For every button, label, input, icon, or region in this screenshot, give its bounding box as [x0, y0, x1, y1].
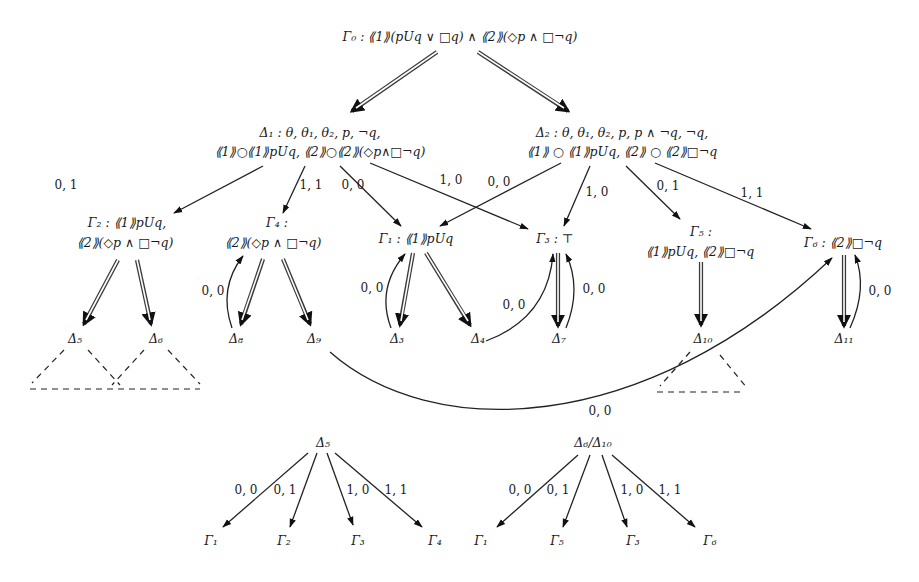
node-delta10: Δ₁₀	[692, 331, 712, 346]
edge-label-delta2-gamma3: 1, 0	[586, 185, 609, 199]
edge-label-delta2-gamma6: 1, 1	[741, 186, 764, 200]
edge-label-delta1-gamma1: 0, 0	[342, 178, 365, 192]
node-delta4: Δ₄	[470, 331, 485, 346]
double-arrow-gamma1-delta3	[400, 253, 413, 325]
node-delta1-line1: Δ₁ : θ, θ₁, θ₂, p, ¬q,	[258, 125, 380, 140]
node-delta8: Δ₈	[228, 331, 243, 346]
transition-arrows: 0, 1 1, 1 0, 0 1, 0 0, 0 1, 0 0, 1 1, 1	[55, 163, 811, 229]
loop-arrows: 0, 0 0, 0 0, 0 0, 0 0, 0 0, 0	[202, 254, 892, 418]
edge-delta9-gamma6	[330, 258, 832, 409]
node-gamma4-line1: Γ₄ :	[265, 215, 288, 230]
bottom-tree-delta6-delta10: Δ₆/Δ₁₀ 0, 0 0, 1 1, 0 1, 1 Γ₁ Γ₅ Γ₃ Γ₆	[473, 435, 717, 548]
tableau-diagram: 0, 1 1, 1 0, 0 1, 0 0, 0 1, 0 0, 1 1, 1 …	[0, 0, 919, 582]
node-delta5: Δ₅	[67, 331, 82, 346]
node-delta9: Δ₉	[306, 331, 321, 346]
double-arrow-gamma2-delta5	[84, 260, 118, 324]
node-delta1-line2: ⟪1⟫○⟪1⟫pUq, ⟪2⟫○⟪2⟫(◇p∧□¬q)	[215, 144, 426, 159]
bottom-left-label-4: 1, 1	[385, 483, 408, 497]
node-delta6: Δ₆	[148, 331, 163, 346]
bottom-left-root: Δ₅	[315, 435, 330, 450]
double-arrow-gamma2-delta6	[137, 260, 151, 324]
edge-label-delta2-gamma1: 0, 0	[488, 175, 511, 189]
node-gamma6: Γ₆ : ⟪2⟫□¬q	[803, 235, 882, 250]
bottom-right-label-4: 1, 1	[659, 483, 682, 497]
double-arrow-gamma0-delta1	[352, 52, 437, 111]
node-delta2-line1: Δ₂ : θ, θ₁, θ₂, p, p ∧ ¬q, ¬q,	[535, 125, 709, 140]
node-delta7: Δ₇	[551, 331, 566, 346]
edge-label-delta7-gamma3: 0, 0	[583, 282, 606, 296]
edge-label-delta4-gamma3: 0, 0	[503, 298, 526, 312]
bottom-right-label-2: 0, 1	[547, 483, 570, 497]
double-arrow-gamma0-delta2	[478, 52, 568, 111]
node-gamma3: Γ₃ : ⊤	[535, 231, 574, 246]
node-gamma2-line1: Γ₂ : ⟪1⟫pUq,	[87, 215, 166, 230]
edge-delta8-gamma4	[227, 256, 243, 328]
double-arrow-gamma1-delta4	[426, 253, 470, 325]
edge-label-delta1-gamma3: 1, 0	[440, 173, 463, 187]
edge-delta7-gamma3	[566, 254, 574, 328]
bottom-right-child-1: Γ₁	[473, 533, 488, 548]
subtree-triangles	[30, 350, 747, 392]
subtree-delta10	[657, 352, 747, 392]
node-gamma5-line1: Γ₅ :	[689, 224, 712, 239]
bottom-right-label-1: 0, 0	[509, 483, 532, 497]
bottom-left-child-2: Γ₂	[276, 533, 291, 548]
bottom-right-child-4: Γ₆	[702, 533, 717, 548]
bottom-right-child-3: Γ₃	[625, 533, 640, 548]
node-gamma0: Γ₀ : ⟪1⟫(pUq ∨ □q) ∧ ⟪2⟫(◇p ∧ □¬q)	[342, 29, 578, 44]
bottom-right-child-2: Γ₅	[549, 533, 564, 548]
double-arrow-gamma4-delta9	[283, 259, 310, 324]
bottom-left-child-3: Γ₃	[350, 533, 365, 548]
node-gamma4-line2: ⟪2⟫(◇p ∧ □¬q)	[225, 235, 322, 250]
edge-label-delta1-gamma2: 0, 1	[55, 178, 78, 192]
double-arrow-gamma4-delta8	[241, 259, 263, 324]
bottom-left-label-2: 0, 1	[274, 483, 297, 497]
bottom-tree-delta5: Δ₅ 0, 0 0, 1 1, 0 1, 1 Γ₁ Γ₂ Γ₃ Γ₄	[203, 435, 442, 548]
node-delta3: Δ₃	[389, 331, 404, 346]
node-delta2-line2: ⟪1⟫ ○ ⟪1⟫pUq, ⟪2⟫ ○ ⟪2⟫□¬q	[527, 144, 717, 159]
node-gamma2-line2: ⟪2⟫(◇p ∧ □¬q)	[77, 235, 174, 250]
edge-label-delta1-gamma4: 1, 1	[300, 178, 323, 192]
edge-delta11-gamma6	[850, 255, 860, 328]
edge-label-delta3-gamma1: 0, 0	[361, 281, 384, 295]
edge-delta1-gamma1	[340, 166, 401, 226]
edge-delta2-gamma6	[655, 163, 811, 229]
edge-label-delta9-gamma6: 0, 0	[589, 404, 612, 418]
node-gamma1: Γ₁ : ⟪1⟫pUq	[378, 231, 453, 246]
bottom-right-root: Δ₆/Δ₁₀	[573, 435, 611, 450]
subtree-delta6	[112, 350, 200, 385]
edge-label-delta8-gamma4: 0, 0	[202, 284, 225, 298]
bottom-left-child-4: Γ₄	[427, 533, 442, 548]
subtree-delta5	[32, 350, 120, 385]
edge-delta1-gamma2	[174, 166, 263, 213]
edge-label-delta11-gamma6: 0, 0	[869, 284, 892, 298]
node-gamma5-line2: ⟪1⟫pUq, ⟪2⟫□¬q	[646, 244, 755, 259]
bottom-left-child-1: Γ₁	[203, 533, 218, 548]
node-delta11: Δ₁₁	[833, 331, 853, 346]
bottom-left-label-1: 0, 0	[235, 483, 258, 497]
bottom-left-label-3: 1, 0	[347, 483, 370, 497]
expansion-arrows	[84, 52, 844, 326]
bottom-right-label-3: 1, 0	[621, 483, 644, 497]
edge-label-delta2-gamma5: 0, 1	[657, 179, 680, 193]
